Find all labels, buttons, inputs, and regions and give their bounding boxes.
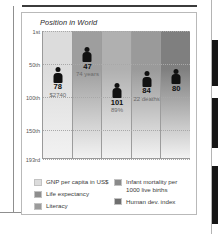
page-edge-mark-3 (212, 166, 218, 224)
person-head-icon (115, 83, 120, 88)
legend-label: Life expectancy (46, 190, 89, 198)
person-icon (111, 83, 124, 99)
data-point-sublabel: 22 deaths (133, 96, 159, 103)
person-head-icon (55, 67, 60, 72)
data-point-rank: 78 (49, 83, 66, 92)
figure-panel: Position in World 1st50th100th150th193rd… (21, 12, 197, 215)
person-icon (140, 71, 153, 87)
legend-column-left: GNP per capita in US$Life expectancyLite… (34, 178, 114, 214)
data-point-label: 78$2740 (49, 83, 66, 99)
person-body-icon (142, 77, 151, 87)
data-point-sublabel: $2740 (49, 92, 66, 99)
plot-area: 1st50th100th150th193rd 78$27404774 years… (42, 31, 190, 159)
person-icon (170, 69, 183, 85)
gridline: 1st (43, 31, 190, 32)
y-axis-tick-label: 1st (33, 29, 40, 35)
legend-column-right: Infant mortality per 1000 live birthsHum… (114, 178, 186, 214)
legend-item[interactable]: Life expectancy (34, 190, 114, 198)
legend-swatch-icon (34, 179, 42, 186)
person-head-icon (144, 71, 149, 76)
legend-item[interactable]: Literacy (34, 202, 114, 210)
data-point-sublabel: 89% (111, 107, 124, 114)
y-axis-tick-label: 50th (29, 62, 40, 68)
legend-swatch-icon (34, 203, 42, 210)
gridline: 193rd (43, 159, 190, 160)
y-axis-tick-label: 100th (26, 95, 40, 101)
page-rule-top (22, 5, 197, 7)
data-point-label: 8422 deaths (133, 87, 159, 103)
person-body-icon (113, 88, 122, 98)
person-body-icon (53, 73, 62, 83)
y-axis-tick-label: 150th (26, 128, 40, 134)
person-head-icon (174, 69, 179, 74)
data-point-rank: 47 (76, 63, 99, 72)
data-point-label: 80 (172, 85, 180, 94)
y-axis-tick-label: 193rd (26, 157, 40, 163)
legend-item[interactable]: GNP per capita in US$ (34, 178, 114, 186)
legend-swatch-icon (34, 191, 42, 198)
chart-column (161, 31, 190, 158)
data-point-rank: 101 (111, 99, 124, 108)
legend-item[interactable]: Human dev. index (114, 198, 186, 206)
legend-swatch-icon (114, 198, 122, 205)
data-point-rank: 80 (172, 85, 180, 94)
legend-label: Literacy (46, 202, 68, 210)
legend-label: GNP per capita in US$ (46, 178, 108, 186)
page-edge-mark-1 (212, 40, 218, 86)
data-point-rank: 84 (133, 87, 159, 96)
legend-item[interactable]: Infant mortality per 1000 live births (114, 178, 186, 193)
person-icon (51, 67, 64, 83)
person-head-icon (85, 47, 90, 52)
data-point-label: 4774 years (76, 63, 99, 79)
legend-swatch-icon (114, 179, 122, 186)
data-point-label: 10189% (111, 99, 124, 115)
person-body-icon (172, 74, 181, 84)
chart-legend: GNP per capita in US$Life expectancyLite… (34, 178, 186, 214)
chart-title: Position in World (40, 18, 97, 27)
legend-label: Human dev. index (126, 198, 175, 206)
data-point-sublabel: 74 years (76, 71, 99, 78)
gridline: 150th (43, 130, 190, 131)
page-rule-left (13, 6, 14, 213)
person-body-icon (83, 52, 92, 62)
person-icon (81, 47, 94, 63)
legend-label: Infant mortality per 1000 live births (126, 178, 186, 193)
page-edge-mark-2 (212, 98, 218, 148)
gridline: 50th (43, 64, 190, 65)
